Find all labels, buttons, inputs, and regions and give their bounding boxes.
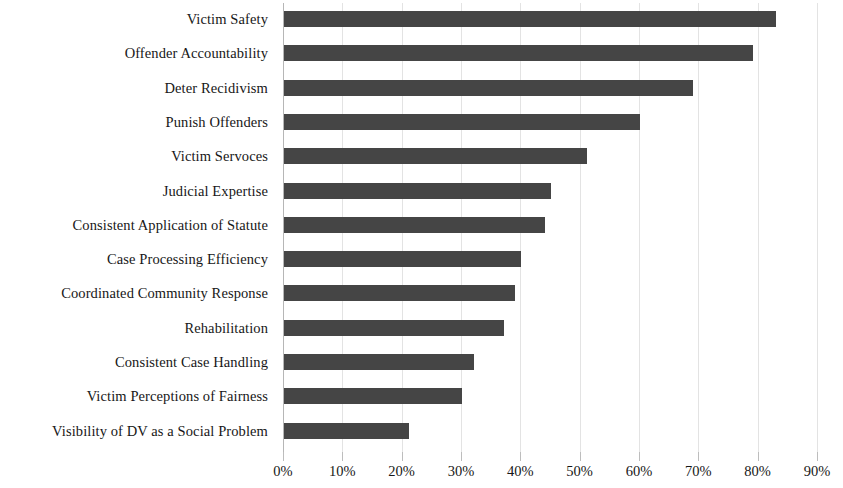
category-label: Judicial Expertise	[0, 183, 268, 199]
bar	[284, 45, 753, 61]
axis-tick	[639, 452, 640, 461]
category-label: Coordinated Community Response	[0, 285, 268, 301]
axis-tick-label: 90%	[787, 462, 843, 480]
bar	[284, 320, 504, 336]
category-label: Victim Perceptions of Fairness	[0, 388, 268, 404]
bar	[284, 285, 515, 301]
axis-tick	[698, 452, 699, 461]
bar	[284, 80, 693, 96]
category-label: Victim Safety	[0, 11, 268, 27]
axis-tick-label: 30%	[431, 462, 491, 480]
category-label: Punish Offenders	[0, 114, 268, 130]
category-axis-labels: Victim SafetyOffender AccountabilityDete…	[0, 0, 276, 452]
bar	[284, 251, 521, 267]
plot-area	[283, 3, 817, 452]
axis-tick-label: 50%	[550, 462, 610, 480]
axis-tick-label: 70%	[668, 462, 728, 480]
axis-tick-label: 40%	[490, 462, 550, 480]
bar	[284, 217, 545, 233]
category-label: Rehabilitation	[0, 320, 268, 336]
axis-tick-label: 10%	[312, 462, 372, 480]
bar	[284, 148, 587, 164]
axis-tick	[461, 452, 462, 461]
category-label: Visibility of DV as a Social Problem	[0, 423, 268, 439]
axis-tick	[758, 452, 759, 461]
bar	[284, 114, 640, 130]
axis-tick-label: 80%	[728, 462, 788, 480]
category-label: Case Processing Efficiency	[0, 251, 268, 267]
category-label: Deter Recidivism	[0, 80, 268, 96]
axis-tick	[283, 452, 284, 461]
bar	[284, 388, 462, 404]
axis-tick	[520, 452, 521, 461]
category-label: Offender Accountability	[0, 45, 268, 61]
category-label: Consistent Case Handling	[0, 354, 268, 370]
horizontal-bar-chart: Victim SafetyOffender AccountabilityDete…	[0, 0, 843, 488]
axis-tick-label: 60%	[609, 462, 669, 480]
bar	[284, 423, 409, 439]
bar	[284, 11, 776, 27]
category-label: Consistent Application of Statute	[0, 217, 268, 233]
bar-series	[283, 3, 817, 452]
category-label: Victim Servoces	[0, 148, 268, 164]
gridline	[817, 3, 818, 452]
axis-tick	[342, 452, 343, 461]
bar	[284, 183, 551, 199]
axis-tick	[402, 452, 403, 461]
axis-tick	[580, 452, 581, 461]
axis-tick-label: 20%	[372, 462, 432, 480]
bar	[284, 354, 474, 370]
axis-tick	[817, 452, 818, 461]
axis-tick-label: 0%	[253, 462, 313, 480]
